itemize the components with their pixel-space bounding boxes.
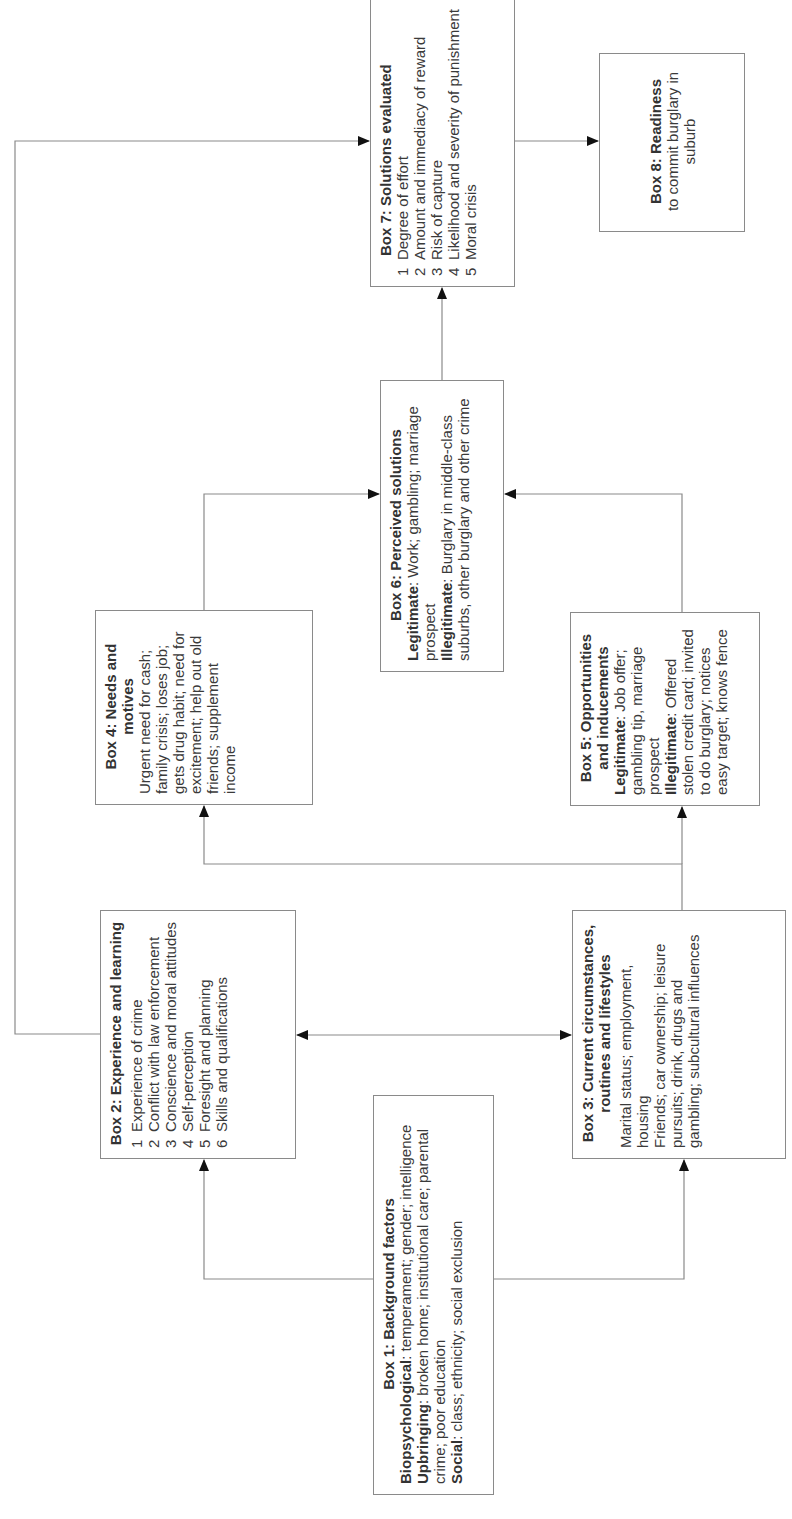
box7-item: 2Amount and immediacy of reward bbox=[411, 0, 428, 276]
crime-decision-diagram: Box 1: Background factors Biopsychologic… bbox=[0, 0, 792, 1519]
box7-item: 5Moral crisis bbox=[462, 0, 479, 276]
box-opportunities-and-inducements: Box 5: Opportunities and inducements Leg… bbox=[570, 612, 760, 806]
box6-illegitimate: Illegitimate: Burglary in middle-class s… bbox=[438, 389, 472, 661]
box2-item: 1Experience of crime bbox=[128, 919, 145, 1148]
box6-title: Box 6: Perceived solutions bbox=[387, 389, 404, 661]
box1-social: Social: class; ethnicity; social exclusi… bbox=[448, 1104, 465, 1484]
box-readiness: Box 8: Readiness to commit burglary in s… bbox=[599, 53, 745, 232]
box2-item: 3Conscience and moral attitudes bbox=[162, 919, 179, 1148]
box2-item: 5Foresight and planning bbox=[196, 919, 213, 1148]
box-background-factors: Box 1: Background factors Biopsychologic… bbox=[373, 1095, 494, 1495]
box-needs-and-motives: Box 4: Needs and motives Urgent need for… bbox=[95, 610, 313, 805]
connector-box3-box4 bbox=[204, 806, 682, 910]
box2-item: 6Skills and qualifications bbox=[213, 919, 230, 1148]
box-experience-and-learning: Box 2: Experience and learning 1Experien… bbox=[100, 910, 296, 1159]
box-perceived-solutions: Box 6: Perceived solutions Legitimate: W… bbox=[380, 380, 504, 672]
box2-list: 1Experience of crime 2Conflict with law … bbox=[128, 919, 230, 1148]
box7-item: 1Degree of effort bbox=[394, 0, 411, 276]
connector-box5-box6 bbox=[505, 494, 682, 612]
box2-item: 4Self-perception bbox=[179, 919, 196, 1148]
box8-title: Box 8: Readiness bbox=[647, 62, 664, 221]
box7-list: 1Degree of effort 2Amount and immediacy … bbox=[394, 0, 479, 276]
box4-title: Box 4: Needs and motives bbox=[102, 619, 136, 794]
box1-biopsychological: Biopsychological: temperament; gender; i… bbox=[397, 1104, 414, 1484]
box4-text: Urgent need for cash; family crisis; los… bbox=[136, 619, 238, 794]
box7-title: Box 7: Solutions evaluated bbox=[377, 0, 394, 276]
box5-title: Box 5: Opportunities and inducements bbox=[577, 621, 611, 795]
box2-item: 2Conflict with law enforcement bbox=[145, 919, 162, 1148]
box8-content: Box 8: Readiness to commit burglary in s… bbox=[647, 62, 698, 221]
box3-line: Friends; car ownership; leisure pursuits… bbox=[651, 919, 702, 1148]
box8-text: to commit burglary in suburb bbox=[664, 62, 698, 221]
box3-title: Box 3: Current circumstances, routines a… bbox=[579, 919, 613, 1148]
box1-upbringing: Upbringing: broken home; institutional c… bbox=[414, 1104, 448, 1484]
box7-item: 3Risk of capture bbox=[428, 0, 445, 276]
box3-line: Marital status; employment, housing bbox=[617, 919, 651, 1148]
box-current-circumstances: Box 3: Current circumstances, routines a… bbox=[572, 910, 786, 1159]
box-solutions-evaluated: Box 7: Solutions evaluated 1Degree of ef… bbox=[370, 0, 515, 287]
connector-box2-box7 bbox=[15, 141, 369, 1034]
box1-title: Box 1: Background factors bbox=[380, 1104, 397, 1484]
box5-legitimate: Legitimate: Job offer; gambling tip, mar… bbox=[611, 621, 662, 795]
box7-item: 4Likelihood and severity of punishment bbox=[445, 0, 462, 276]
connector-box4-box6 bbox=[204, 494, 379, 610]
box2-title: Box 2: Experience and learning bbox=[107, 919, 124, 1148]
box5-illegitimate: Illegitimate: Offered stolen credit card… bbox=[662, 621, 730, 795]
box6-legitimate: Legitimate: Work; gambling; marriage pro… bbox=[404, 389, 438, 661]
